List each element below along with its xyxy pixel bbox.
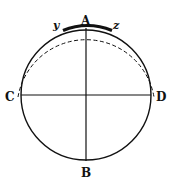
label-a: A <box>80 14 91 28</box>
label-c: C <box>5 90 15 104</box>
diagram-canvas: A B C D y z <box>0 0 171 185</box>
label-z: z <box>112 19 120 32</box>
label-d: D <box>156 90 166 104</box>
label-y: y <box>52 19 61 32</box>
circle-diagram: A B C D y z <box>0 0 171 185</box>
label-b: B <box>81 166 91 180</box>
